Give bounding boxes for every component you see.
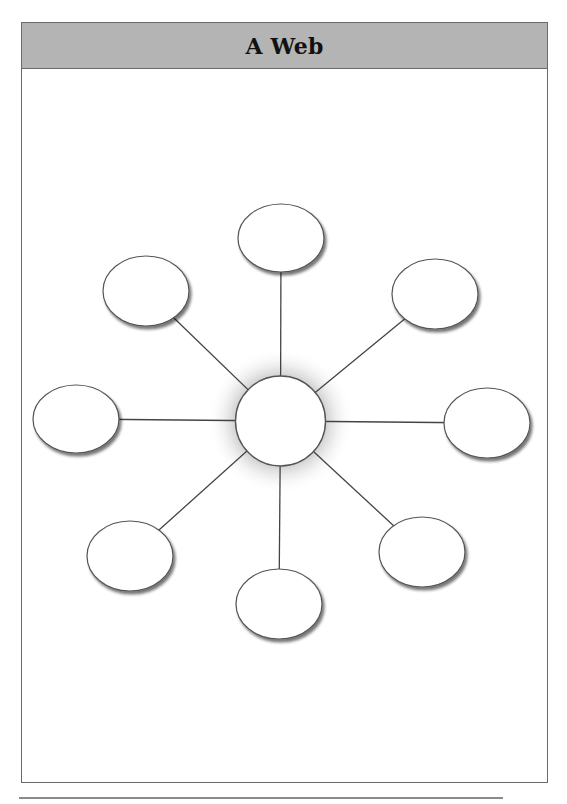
web-nodes bbox=[33, 204, 530, 639]
web-center-node bbox=[236, 376, 326, 466]
graphic-organizer-page: A Web bbox=[0, 0, 567, 804]
web-node-top-right bbox=[392, 259, 478, 329]
web-node-bottom-right bbox=[379, 517, 465, 587]
web-node-bottom-left bbox=[87, 521, 173, 591]
web-node-right bbox=[444, 388, 530, 458]
web-node-top bbox=[238, 204, 324, 272]
web-node-top-left bbox=[103, 256, 189, 326]
web-node-left bbox=[33, 385, 119, 453]
web-diagram bbox=[0, 0, 567, 804]
web-node-bottom bbox=[236, 569, 322, 639]
footer-rule bbox=[19, 797, 503, 799]
